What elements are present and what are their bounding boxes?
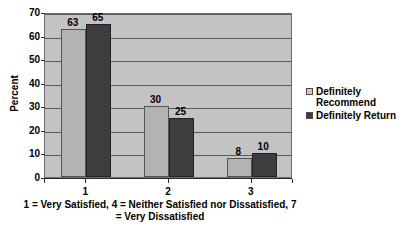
y-axis-tick-label: 50 [18,55,40,65]
x-axis-tick-mark [251,179,252,183]
x-axis-tick-label: 2 [153,186,183,197]
x-axis-tick-mark [168,179,169,183]
y-axis-tick-label: 40 [18,79,40,89]
bar-value-label: 25 [166,107,196,117]
legend-label: Definitely Return [316,110,396,121]
legend-swatch-icon [306,112,313,119]
bar [61,29,86,178]
x-axis-tick-label: 1 [70,186,100,197]
y-axis-tick-mark [41,84,45,85]
y-axis-tick-label: 30 [18,102,40,112]
legend-item: Definitely Return [306,110,402,121]
bar-value-label: 65 [83,13,113,23]
chart-legend: Definitely RecommendDefinitely Return [306,86,402,123]
bar [252,153,277,177]
y-axis-tick-mark [41,178,45,179]
bar-value-label: 30 [141,95,171,105]
y-axis-tick-mark [41,131,45,132]
y-axis-tick-label: 0 [18,173,40,183]
y-axis-tick-label: 10 [18,149,40,159]
y-axis-tick-mark [41,37,45,38]
legend-label: Definitely Recommend [316,86,376,108]
y-axis-tick-mark [41,154,45,155]
x-axis-tick-mark [44,179,45,183]
y-axis-tick-mark [41,60,45,61]
legend-item: Definitely Recommend [306,86,402,108]
y-axis-tick-label: 60 [18,32,40,42]
y-axis-tick-mark [41,13,45,14]
y-axis-tick-label: 70 [18,8,40,18]
bar-chart: Percent 706050403020100 63653025810 123 … [0,0,404,231]
x-axis-tick-mark [292,179,293,183]
y-axis-tick-label: 20 [18,126,40,136]
bar [86,24,111,177]
bar-value-label: 10 [248,142,278,152]
bar [169,118,194,177]
x-axis-tick-label: 3 [236,186,266,197]
y-axis-tick-labels: 706050403020100 [16,0,40,231]
bar [227,158,252,177]
y-axis-tick-mark [41,107,45,108]
x-axis-caption: 1 = Very Satisfied, 4 = Neither Satisfie… [20,199,300,223]
x-axis-tick-mark [85,179,86,183]
legend-swatch-icon [306,88,313,95]
